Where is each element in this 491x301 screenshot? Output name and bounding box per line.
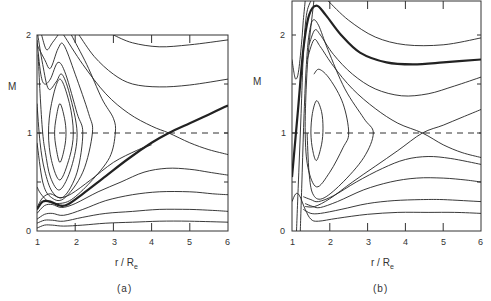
panel-b-xlabel-sub: e <box>390 263 394 270</box>
panel-a-ytick-0: 0 <box>26 227 31 236</box>
panel-b-caption: (b) <box>373 283 388 294</box>
panel-a-xtick-3: 3 <box>112 238 117 247</box>
curve-top-right <box>328 1 481 46</box>
panel-a-xlabel-text: r / R <box>115 257 134 268</box>
figure-canvas <box>0 0 491 301</box>
panel-a-xlabel: r / Re <box>115 257 138 270</box>
panel-a-xtick-6: 6 <box>225 238 230 247</box>
panel-b-xtick-6: 6 <box>478 238 483 247</box>
panel-a-xtick-4: 4 <box>149 238 154 247</box>
curve-separatrix-falling <box>64 35 228 155</box>
panel-b-xtick-3: 3 <box>366 238 371 247</box>
curve-separatrix-falling <box>307 39 481 157</box>
panel-b-xtick-5: 5 <box>441 238 446 247</box>
panel-b-ytick-1: 1 <box>281 129 286 138</box>
panel-b-ylabel: M <box>253 76 261 87</box>
panel-b-xlabel: r / Re <box>371 257 394 270</box>
curve-wave-1 <box>37 40 83 198</box>
curve-low-3 <box>303 199 481 213</box>
panel-b-ytick-2: 2 <box>280 31 285 40</box>
panel-b-xtick-4: 4 <box>403 238 408 247</box>
panel-b-plot <box>292 1 481 231</box>
panel-b-xlabel-text: r / R <box>371 257 390 268</box>
panel-a-xlabel-sub: e <box>134 263 138 270</box>
curve-left-bowl <box>292 1 305 79</box>
panel-a-ylabel: M <box>8 81 16 92</box>
panel-a-ytick-1: 1 <box>27 129 32 138</box>
panel-a-xtick-2: 2 <box>74 238 79 247</box>
curve-low-4 <box>37 221 228 228</box>
curve-transonic-bold <box>37 106 228 210</box>
panel-a-caption: (a) <box>117 283 132 294</box>
curve-wave-3 <box>42 35 58 50</box>
panel-b-ytick-0: 0 <box>280 227 285 236</box>
panel-b-xtick-2: 2 <box>328 238 333 247</box>
panel-a-plot <box>37 35 228 231</box>
panel-a-xtick-1: 1 <box>35 238 40 247</box>
curve-closed-1 <box>311 101 323 161</box>
panel-a-ytick-2: 2 <box>26 31 31 40</box>
curve-low-1 <box>37 168 228 213</box>
panel-a-xtick-5: 5 <box>187 238 192 247</box>
panel-b-xtick-1: 1 <box>290 238 295 247</box>
curve-top-right <box>113 35 228 47</box>
curve-closed-2 <box>305 1 349 187</box>
